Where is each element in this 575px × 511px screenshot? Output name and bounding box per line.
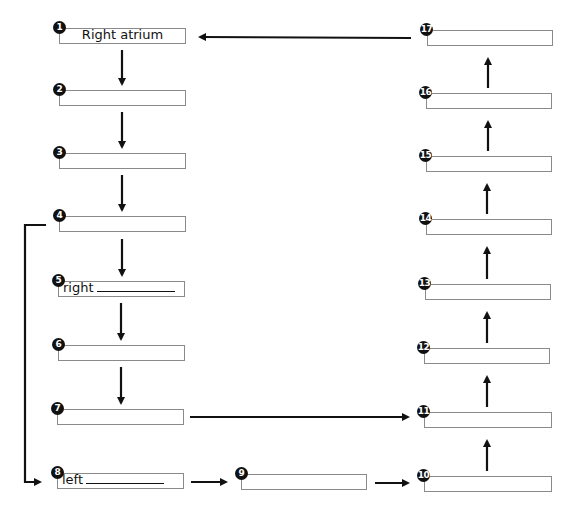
node-12-badge: 12 — [417, 341, 430, 354]
node-5-blank-line[interactable] — [97, 291, 175, 292]
node-13-box[interactable] — [425, 284, 551, 300]
node-3-box[interactable] — [59, 153, 186, 169]
node-11-badge: 11 — [417, 405, 430, 418]
node-12-box[interactable] — [424, 348, 550, 364]
node-9-box[interactable] — [241, 474, 367, 490]
node-6-box[interactable] — [58, 345, 185, 361]
node-17-badge: 17 — [420, 23, 433, 36]
node-8-blank-line[interactable] — [86, 483, 164, 484]
connector-arrows — [0, 0, 575, 511]
node-8-prefix: left — [62, 472, 83, 487]
node-8-text: left — [62, 472, 164, 487]
node-1-badge: 1 — [53, 21, 66, 34]
node-13-badge: 13 — [418, 277, 431, 290]
node-8-badge: 8 — [51, 466, 64, 479]
node-5-badge: 5 — [52, 274, 65, 287]
arrow-4-to-8 — [25, 225, 46, 482]
node-14-box[interactable] — [426, 219, 552, 235]
node-15-box[interactable] — [426, 156, 552, 172]
node-17-box[interactable] — [427, 30, 553, 46]
node-9-badge: 9 — [235, 467, 248, 480]
node-6-badge: 6 — [52, 338, 65, 351]
node-10-badge: 10 — [417, 469, 430, 482]
node-10-box[interactable] — [424, 476, 552, 492]
node-2-box[interactable] — [59, 90, 186, 106]
node-7-box[interactable] — [57, 409, 184, 425]
arrow-17-to-1 — [200, 37, 411, 38]
node-1-box[interactable]: Right atrium — [59, 28, 186, 44]
node-15-badge: 15 — [419, 149, 432, 162]
node-1-text: Right atrium — [60, 27, 185, 42]
node-5-prefix: right — [63, 280, 94, 295]
node-7-badge: 7 — [51, 402, 64, 415]
node-4-box[interactable] — [59, 216, 186, 232]
node-4-badge: 4 — [53, 209, 66, 222]
node-3-badge: 3 — [53, 146, 66, 159]
node-5-box[interactable]: right — [58, 281, 185, 297]
node-8-box[interactable]: left — [57, 473, 184, 489]
node-16-badge: 16 — [419, 86, 432, 99]
node-14-badge: 14 — [419, 212, 432, 225]
node-11-box[interactable] — [424, 412, 552, 428]
node-2-badge: 2 — [53, 83, 66, 96]
node-5-text: right — [63, 280, 175, 295]
node-16-box[interactable] — [426, 93, 552, 109]
